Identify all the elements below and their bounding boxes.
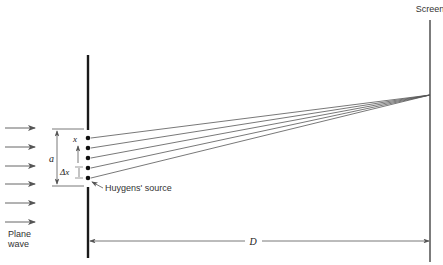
diagram-canvas: Screen Plane wave a x Δx bbox=[0, 0, 443, 265]
source-dot bbox=[86, 156, 91, 161]
ray bbox=[91, 95, 430, 148]
screen-label: Screen bbox=[416, 4, 443, 14]
source-dot bbox=[86, 136, 91, 141]
rays bbox=[91, 95, 430, 178]
source-dot bbox=[86, 166, 91, 171]
position-label: x bbox=[72, 134, 77, 144]
plane-wave-label-line2: wave bbox=[7, 239, 29, 249]
huygens-source-label: Huygens' source bbox=[105, 183, 172, 193]
distance-label: D bbox=[248, 236, 257, 247]
source-dot bbox=[86, 146, 91, 151]
huygens-source-pointer bbox=[92, 182, 103, 188]
ray bbox=[91, 95, 430, 178]
ray bbox=[91, 95, 430, 158]
huygens-sources bbox=[86, 136, 91, 181]
source-dot bbox=[86, 176, 91, 181]
spacing-label: Δx bbox=[59, 167, 69, 177]
plane-wave-arrows bbox=[5, 128, 35, 222]
plane-wave-label-line1: Plane bbox=[8, 229, 31, 239]
slit-width-label: a bbox=[49, 153, 54, 164]
